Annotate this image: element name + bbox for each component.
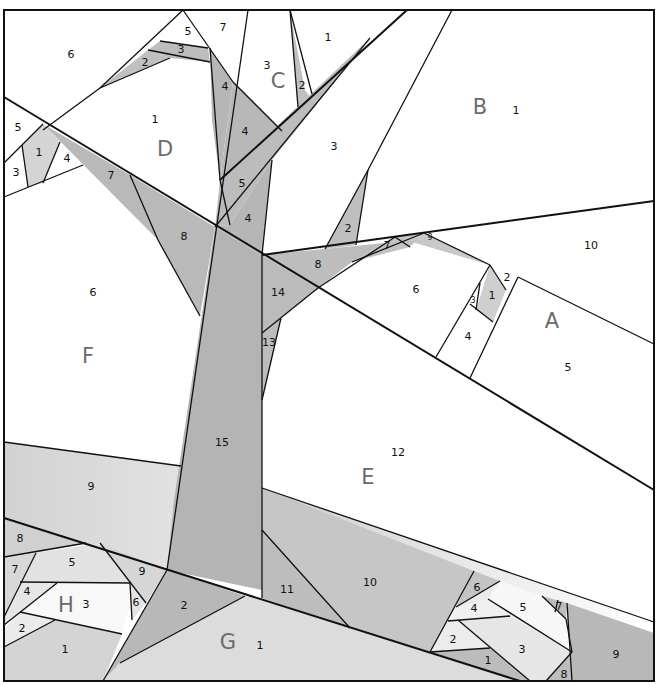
piece-number: 4: [245, 212, 252, 225]
piece-number: 1: [257, 639, 264, 652]
piece-number: 3: [470, 296, 475, 305]
section-label-c: C: [271, 69, 286, 93]
piece-number: 5: [239, 177, 246, 190]
piece-number: 7: [12, 563, 19, 576]
piece-number: 1: [485, 654, 492, 667]
tree-piecing-pattern: A12345678910B123C123454D1234567134578E10…: [0, 0, 657, 685]
piece-number: 4: [471, 602, 478, 615]
piece-number: 2: [19, 622, 26, 635]
piece-number: 2: [181, 599, 188, 612]
piece-number: 10: [584, 239, 598, 252]
piece-number: 6: [413, 283, 420, 296]
piece-number: 2: [450, 633, 457, 646]
piece-number: 1: [152, 113, 159, 126]
piece-number: 10: [363, 576, 377, 589]
piece-number: 8: [315, 258, 322, 271]
piece-number: 3: [13, 166, 20, 179]
piece-number: 5: [565, 361, 572, 374]
piece-number: 9: [139, 565, 146, 578]
piece-number: 7: [384, 239, 391, 252]
piece-number: 4: [465, 330, 472, 343]
piece-number: 4: [222, 80, 229, 93]
piece-number: 1: [325, 31, 332, 44]
section-label-b: B: [473, 95, 487, 119]
piece-number: 6: [68, 48, 75, 61]
piece-number: 6: [90, 286, 97, 299]
piece-number: 6: [133, 596, 140, 609]
section-label-f: F: [82, 344, 94, 368]
piece-number: 8: [561, 668, 568, 681]
piece-number: 2: [504, 271, 511, 284]
piece-number: 3: [264, 59, 271, 72]
piece-number: 14: [271, 286, 285, 299]
piece-number: 3: [519, 643, 526, 656]
piece-number: 5: [69, 556, 76, 569]
piece-number: 3: [178, 43, 185, 56]
piece-number: 4: [242, 125, 249, 138]
piece-number: 13: [262, 336, 276, 349]
piece-number: 9: [88, 480, 95, 493]
piece-number: 4: [24, 585, 31, 598]
piece-number: 3: [331, 140, 338, 153]
piece-number: 2: [345, 222, 352, 235]
piece-number: 8: [17, 532, 24, 545]
piece-number: 3: [83, 598, 90, 611]
piece-number: 1: [489, 289, 496, 302]
piece-number: 1: [62, 643, 69, 656]
piece-number: 12: [391, 446, 405, 459]
section-label-a: A: [545, 309, 560, 333]
piece-number: 15: [215, 436, 229, 449]
piece-number: 2: [299, 79, 306, 92]
pattern-svg: A12345678910B123C123454D1234567134578E10…: [0, 0, 657, 685]
piece-number: 7: [108, 169, 115, 182]
section-label-h: H: [58, 593, 74, 617]
piece-number: 5: [520, 601, 527, 614]
piece-number: 1: [36, 146, 43, 159]
piece-number: 2: [142, 56, 149, 69]
section-label-g: G: [220, 630, 236, 654]
piece-number: 5: [185, 25, 192, 38]
piece-number: 5: [15, 121, 22, 134]
piece-number: 8: [181, 230, 188, 243]
piece-number: 11: [280, 583, 294, 596]
section-label-d: D: [157, 137, 173, 161]
piece-number: 9: [427, 233, 432, 242]
piece-number: 4: [64, 152, 71, 165]
piece-number: 7: [556, 600, 563, 613]
piece-number: 9: [613, 648, 620, 661]
piece-number: 7: [220, 21, 227, 34]
piece-number: 6: [474, 581, 481, 594]
section-label-e: E: [361, 465, 374, 489]
piece-number: 1: [513, 104, 520, 117]
